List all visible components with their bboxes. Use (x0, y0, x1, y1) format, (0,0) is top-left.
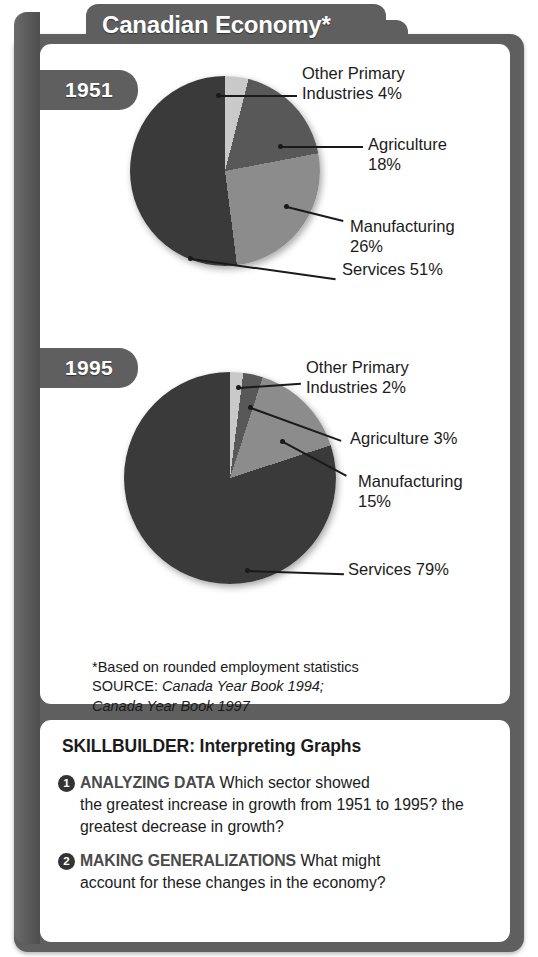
callout-other-primary-1951: Other Primary Industries 4% (302, 63, 405, 103)
callout-services-1951: Services 51% (342, 259, 443, 279)
callout-manufacturing-1951: Manufacturing 26% (350, 216, 455, 256)
source-prefix: SOURCE: (92, 678, 162, 694)
leader-line-agriculture-1951 (281, 146, 363, 148)
question-text-1-head: Which sector showed (220, 774, 370, 791)
skillbuilder-question-2: 2MAKING GENERALIZATIONS What might accou… (58, 850, 492, 894)
pie-chart-1951 (130, 76, 320, 266)
leader-line-other-primary-1951 (219, 95, 297, 97)
frame-left-spine (14, 12, 40, 944)
skillbuilder-panel: SKILLBUILDER: Interpreting Graphs 1ANALY… (40, 720, 510, 942)
question-text-2-head: What might (300, 852, 380, 869)
question-label-2: MAKING GENERALIZATIONS (80, 852, 296, 869)
leader-line-services-1951 (191, 258, 336, 280)
skillbuilder-title: SKILLBUILDER: Interpreting Graphs (62, 736, 361, 757)
question-number-1: 1 (58, 775, 75, 792)
source-note: *Based on rounded employment statistics … (92, 658, 359, 716)
pie-chart-1995 (124, 372, 336, 584)
skillbuilder-question-1: 1ANALYZING DATA Which sector showed the … (58, 772, 492, 837)
callout-manufacturing-1995: Manufacturing 15% (358, 471, 463, 511)
source-footnote: *Based on rounded employment statistics (92, 658, 359, 677)
question-number-2: 2 (58, 853, 75, 870)
callout-other-primary-1995: Other Primary Industries 2% (306, 357, 409, 397)
page-title: Canadian Economy* (102, 11, 331, 39)
question-text-2-rest: account for these changes in the economy… (80, 872, 492, 894)
question-text-1-rest: the greatest increase in growth from 195… (80, 794, 492, 838)
infographic-frame: Canadian Economy* Other Primary Industri… (14, 4, 524, 952)
source-line-1: SOURCE: Canada Year Book 1994; (92, 677, 359, 696)
callout-agriculture-1951: Agriculture 18% (368, 134, 447, 174)
source-title-1994: Canada Year Book 1994; (162, 678, 324, 694)
source-title-1997: Canada Year Book 1997 (92, 697, 359, 716)
callout-agriculture-1995: Agriculture 3% (350, 428, 457, 448)
year-tab-1951: 1951 (40, 70, 138, 110)
callout-services-1995: Services 79% (348, 559, 449, 579)
year-tab-1995: 1995 (40, 348, 138, 388)
question-label-1: ANALYZING DATA (80, 774, 215, 791)
